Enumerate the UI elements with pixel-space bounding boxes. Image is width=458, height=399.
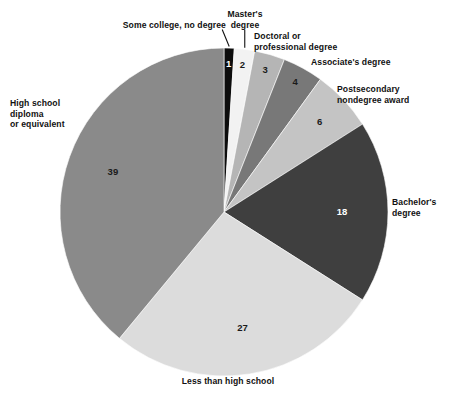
slice-label-postsecondary-nondegree-award: Postsecondary nondegree award: [337, 84, 449, 105]
leader-lines-group: [222, 29, 245, 47]
leader-line: [222, 29, 229, 46]
slice-label-less-than-high-school: Less than high school: [148, 376, 308, 387]
slice-label-some-college: Some college, no degree: [100, 20, 226, 31]
slice-label-masters-degree: Master's degree: [221, 9, 269, 30]
slice-value: 39: [108, 166, 119, 177]
slice-value: 6: [317, 116, 322, 127]
slice-value: 18: [337, 206, 348, 217]
slice-label-doctoral-professional-degree: Doctoral or professional degree: [254, 31, 358, 52]
pie-chart: 12346182739 Some college, no degree Mast…: [0, 0, 458, 399]
slice-value: 2: [240, 59, 245, 70]
slice-label-bachelors-degree: Bachelor's degree: [392, 197, 458, 218]
slice-value: 1: [226, 58, 232, 69]
slice-label-associates-degree: Associate's degree: [311, 57, 423, 68]
slice-value: 27: [237, 322, 248, 333]
slice-value: 3: [263, 64, 268, 75]
slice-label-high-school-diploma: High school diploma or equivalent: [10, 98, 120, 130]
slice-value: 4: [292, 76, 298, 87]
